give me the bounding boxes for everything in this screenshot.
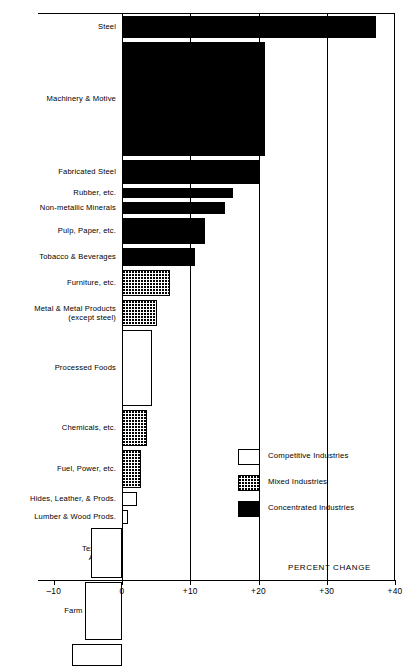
chart-row: Farm Products — [0, 580, 420, 642]
bar-concentrated — [122, 202, 225, 214]
tick-mark--10 — [54, 580, 55, 585]
chart-row: Metal & Metal Products (except steel) — [0, 298, 420, 328]
bar-concentrated — [122, 218, 205, 244]
category-label: Lumber & Wood Prods. — [34, 512, 116, 521]
legend-swatch-mixed-icon — [238, 475, 260, 491]
legend-swatch-competitive-icon — [238, 449, 260, 465]
tick-mark-0 — [122, 580, 123, 585]
chart-row: Furniture, etc. — [0, 268, 420, 298]
bar-concentrated — [122, 160, 259, 184]
tick-label-20: +20 — [251, 586, 266, 596]
bar-concentrated — [122, 42, 265, 156]
tick-label-0: 0 — [120, 586, 125, 596]
category-label: Machinery & Motive — [47, 94, 116, 103]
tick-mark-20 — [259, 580, 260, 585]
category-label: Steel — [98, 22, 116, 31]
bar-competitive — [85, 582, 122, 640]
bar-competitive — [122, 330, 152, 406]
category-label: Fabricated Steel — [58, 167, 116, 176]
chart-row: Hides, Leather, & Prods. — [0, 490, 420, 508]
bar-mixed — [122, 300, 157, 326]
tick-label-30: +30 — [319, 586, 334, 596]
chart-row: Fuel, Power, etc. — [0, 448, 420, 490]
bar-competitive — [91, 528, 122, 578]
bar-competitive — [122, 510, 128, 524]
bar-concentrated — [122, 248, 195, 266]
category-label: Pulp, Paper, etc. — [58, 226, 116, 235]
legend-label-concentrated: Concentrated Industries — [268, 503, 354, 512]
bar-mixed — [122, 410, 147, 446]
chart-row: Rubber, etc. — [0, 186, 420, 200]
legend-label-competitive: Competitive Industries — [268, 451, 348, 460]
chart-row: Non-metallic Minerals — [0, 200, 420, 216]
tick-label--10: –10 — [46, 586, 61, 596]
chart-row: Misc. Prods. — [0, 642, 420, 668]
category-label: Non-metallic Minerals — [40, 203, 116, 212]
tick-mark-10 — [190, 580, 191, 585]
category-label: Rubber, etc. — [73, 188, 116, 197]
tick-label-10: +10 — [183, 586, 198, 596]
chart-row: Processed Foods — [0, 328, 420, 408]
bar-mixed — [122, 270, 170, 296]
bar-competitive — [122, 492, 137, 506]
category-label: Tobacco & Beverages — [39, 252, 116, 261]
tick-label-40: +40 — [388, 586, 403, 596]
bar-concentrated — [122, 188, 233, 198]
chart-row: Chemicals, etc. — [0, 408, 420, 448]
chart-row: Steel — [0, 14, 420, 40]
category-label: Hides, Leather, & Prods. — [30, 494, 116, 503]
chart-row: Fabricated Steel — [0, 158, 420, 186]
tick-mark-40 — [395, 580, 396, 585]
legend-label-mixed: Mixed Industries — [268, 477, 327, 486]
chart-row: Tobacco & Beverages — [0, 246, 420, 268]
bar-competitive — [72, 644, 122, 666]
category-label: Metal & Metal Products (except steel) — [34, 304, 116, 322]
category-label: Fuel, Power, etc. — [57, 464, 116, 473]
chart-row: Pulp, Paper, etc. — [0, 216, 420, 246]
chart-row: Machinery & Motive — [0, 40, 420, 158]
x-axis-title: PERCENT CHANGE — [288, 563, 371, 572]
category-label: Processed Foods — [55, 363, 116, 372]
bar-concentrated — [122, 16, 376, 38]
bar-mixed — [122, 450, 141, 488]
tick-mark-30 — [327, 580, 328, 585]
category-label: Furniture, etc. — [67, 278, 116, 287]
chart-row: Lumber & Wood Prods. — [0, 508, 420, 526]
category-label: Chemicals, etc. — [62, 423, 116, 432]
legend-swatch-concentrated-icon — [238, 501, 260, 517]
